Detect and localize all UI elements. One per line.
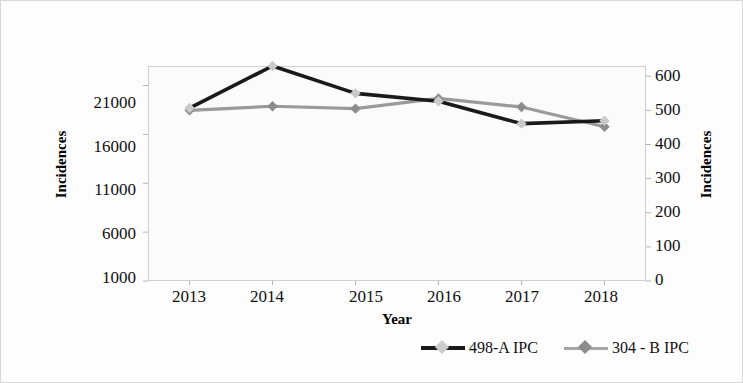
legend-marker-icon xyxy=(421,341,465,355)
chart-legend: 498-A IPC 304 - B IPC xyxy=(421,339,689,357)
legend-label: 304 - B IPC xyxy=(612,339,689,357)
legend-item-498-a-ipc: 498-A IPC xyxy=(421,339,538,357)
legend-marker-icon xyxy=(564,341,608,355)
legend-label: 498-A IPC xyxy=(469,339,538,357)
chart-plot-svg xyxy=(1,1,743,383)
series-498-a-ipc-markers xyxy=(184,61,609,129)
chart-figure: 21000 16000 11000 6000 1000 600 500 400 … xyxy=(0,0,743,383)
series-498-a-ipc xyxy=(190,66,605,124)
legend-item-304-b-ipc: 304 - B IPC xyxy=(564,339,689,357)
